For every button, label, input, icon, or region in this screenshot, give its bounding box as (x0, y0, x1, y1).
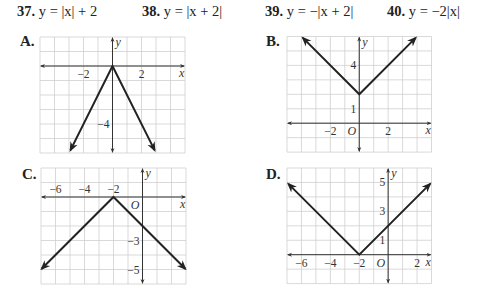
x-tick-label: −2 (107, 183, 119, 195)
x-tick-label: −6 (49, 183, 61, 195)
origin-label: O (131, 198, 140, 212)
x-tick-label: −6 (295, 257, 307, 269)
x-tick-label: −2 (77, 68, 89, 80)
y-tick-label: −5 (127, 264, 139, 276)
y-axis-label: y (390, 166, 397, 180)
graph-c: xy−6−4−2−3−5O (41, 166, 186, 284)
x-tick-label: −4 (78, 183, 90, 195)
y-tick-label: 1 (379, 234, 385, 246)
y-tick-label: 3 (379, 205, 385, 217)
x-axis-label: x (425, 255, 432, 269)
y-axis-label: y (361, 35, 368, 49)
x-tick-label: 2 (385, 125, 391, 137)
x-axis-label: x (179, 197, 186, 211)
y-tick-label: 4 (351, 59, 357, 71)
origin-label: O (348, 124, 357, 138)
x-tick-label: 2 (139, 68, 145, 80)
y-axis-label: y (115, 35, 122, 49)
y-tick-label: −4 (97, 118, 109, 130)
y-axis-label: y (145, 166, 152, 180)
x-tick-label: −2 (324, 125, 336, 137)
graph-b: xy−2241O (287, 35, 432, 153)
x-axis-label: x (178, 66, 185, 80)
graph-a: xy−22−4 (40, 35, 185, 153)
origin-label: O (376, 256, 385, 270)
x-tick-label: −4 (324, 257, 336, 269)
graph-d: xy−6−4−22531O (287, 166, 432, 284)
graph-canvas: xy−22−4xy−2241Oxy−6−4−2−3−5Oxy−6−4−22531… (0, 0, 491, 304)
x-tick-label: 2 (414, 257, 420, 269)
y-tick-label: 5 (379, 176, 385, 188)
x-axis-label: x (425, 123, 432, 137)
x-tick-label: −2 (353, 257, 365, 269)
y-tick-label: 1 (351, 103, 357, 115)
y-tick-label: −3 (127, 235, 139, 247)
